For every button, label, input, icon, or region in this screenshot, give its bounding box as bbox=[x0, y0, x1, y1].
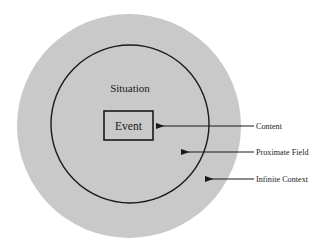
callout-label-infinite-context: Infinite Context bbox=[256, 175, 309, 184]
callout-label-proximate-field: Proximate Field bbox=[256, 148, 309, 157]
diagram-canvas: Situation Event Content Proximate Field … bbox=[0, 0, 335, 251]
callout-label-content: Content bbox=[256, 122, 283, 131]
concentric-context-diagram: Situation Event Content Proximate Field … bbox=[0, 0, 335, 251]
event-label: Event bbox=[115, 120, 143, 132]
situation-label: Situation bbox=[110, 82, 150, 94]
